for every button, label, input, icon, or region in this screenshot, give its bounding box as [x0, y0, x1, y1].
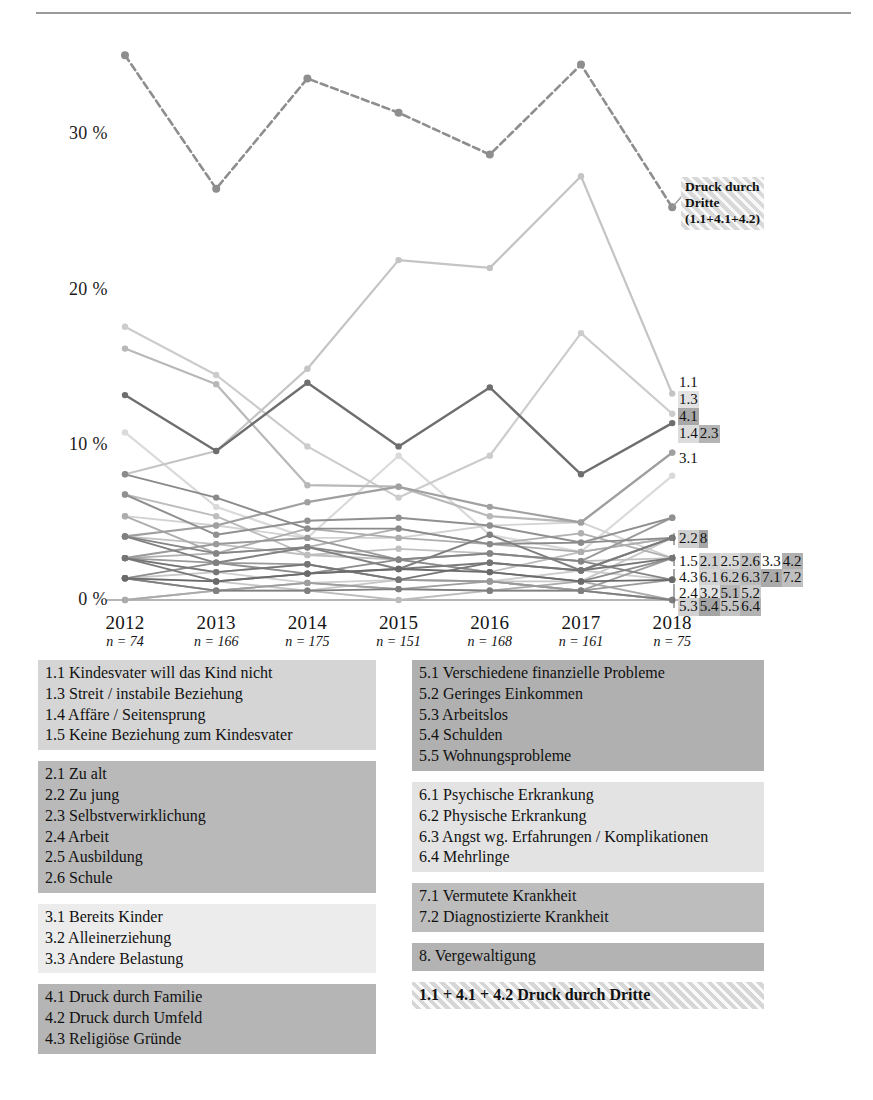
data-point [395, 566, 401, 572]
legend-entry: 3.1 Bereits Kinder [45, 907, 370, 928]
legend-entry: 3.3 Andere Belastung [45, 949, 370, 970]
data-point [395, 494, 401, 500]
legend-entry: 4.2 Druck durch Umfeld [45, 1008, 370, 1029]
data-point [213, 588, 219, 594]
data-point [395, 484, 401, 490]
data-point [304, 366, 310, 372]
y-axis-tick-label: 20 % [36, 279, 108, 300]
data-point [213, 569, 219, 575]
data-point [304, 570, 310, 576]
data-point [487, 522, 493, 528]
data-point [213, 541, 219, 547]
inline-series-label: 6.4 [740, 598, 761, 616]
data-point [213, 494, 219, 500]
series-1.3 [122, 324, 676, 501]
legend-entry: 4.3 Religiöse Gründe [45, 1029, 370, 1050]
data-point [669, 473, 675, 479]
inline-label-row: 5.35.45.56.4 [678, 598, 761, 616]
data-point [487, 384, 493, 390]
y-axis-tick-label: 0 % [36, 589, 108, 610]
data-point [395, 453, 401, 459]
series-4.1 [122, 380, 676, 478]
inline-series-label: 5.3 [678, 598, 699, 616]
data-point [304, 499, 310, 505]
data-point [213, 550, 219, 556]
data-point [395, 556, 401, 562]
inline-series-label: 1.4 [678, 425, 699, 443]
data-point [304, 380, 310, 386]
legend-entry: 7.2 Diagnostizierte Krankheit [419, 907, 758, 928]
legend-entry: 5.1 Verschiedene finanzielle Probleme [419, 663, 758, 684]
data-point [395, 546, 401, 552]
data-point [487, 453, 493, 459]
legend-entry: 5.3 Arbeitslos [419, 705, 758, 726]
data-point [122, 555, 128, 561]
y-axis-tick-label: 30 % [36, 123, 108, 144]
data-point [213, 532, 219, 538]
inline-label-row: 3.1 [678, 450, 699, 468]
data-point [578, 588, 584, 594]
data-point [122, 597, 128, 603]
data-point [487, 578, 493, 584]
chart-page: 0 %10 %20 %30 % 2012n = 742013n = 166201… [0, 0, 873, 1100]
data-point [487, 532, 493, 538]
legend-entry: 2.1 Zu alt [45, 764, 370, 785]
series-druck [121, 51, 676, 211]
data-point [487, 513, 493, 519]
legend-entry: 2.5 Ausbildung [45, 847, 370, 868]
data-point [669, 390, 675, 396]
inline-series-label: 7.1 [761, 569, 782, 587]
legend-block: 7.1 Vermutete Krankheit7.2 Diagnostizier… [412, 883, 764, 932]
legend-entry: 6.4 Mehrlinge [419, 847, 758, 868]
legend-entry: 2.3 Selbstverwirklichung [45, 806, 370, 827]
data-point [487, 560, 493, 566]
data-point [213, 522, 219, 528]
data-point [578, 539, 584, 545]
data-point [213, 560, 219, 566]
legend-block: 4.1 Druck durch Familie4.2 Druck durch U… [38, 984, 376, 1053]
data-point [669, 411, 675, 417]
data-point [304, 443, 310, 449]
legend-entry: 2.6 Schule [45, 868, 370, 889]
legend-entry: 1.4 Affäre / Seitensprung [45, 705, 370, 726]
data-point [578, 173, 584, 179]
line-chart: 0 %10 %20 %30 % 2012n = 742013n = 166201… [0, 0, 873, 660]
data-point [304, 544, 310, 550]
legend-block: 3.1 Bereits Kinder3.2 Alleinerziehung3.3… [38, 904, 376, 973]
data-point [122, 575, 128, 581]
data-point [395, 586, 401, 592]
inline-series-label: 5.5 [720, 598, 741, 616]
y-axis-tick-label: 10 % [36, 434, 108, 455]
data-point [213, 381, 219, 387]
data-point [487, 504, 493, 510]
data-point [395, 109, 403, 117]
data-point [212, 185, 220, 193]
data-point [122, 513, 128, 519]
inline-label-row: 1.3 [678, 391, 699, 409]
legend-entry: 4.1 Druck durch Familie [45, 987, 370, 1008]
inline-label-row: 4.1 [678, 408, 699, 426]
data-point [669, 515, 675, 521]
legend-entry: 1.1 Kindesvater will das Kind nicht [45, 663, 370, 684]
data-point [578, 530, 584, 536]
data-point [304, 561, 310, 567]
data-point [669, 420, 675, 426]
callout-druck-durch-dritte: Druck durch Dritte (1.1+4.1+4.2) [681, 177, 764, 230]
data-point [213, 578, 219, 584]
data-point [122, 324, 128, 330]
data-point [304, 588, 310, 594]
data-point [213, 372, 219, 378]
legend-entry: 5.2 Geringes Einkommen [419, 684, 758, 705]
data-point [487, 541, 493, 547]
data-point [395, 577, 401, 583]
data-point [122, 345, 128, 351]
legend-block: 5.1 Verschiedene finanzielle Probleme5.2… [412, 660, 764, 771]
data-point [578, 578, 584, 584]
data-point [578, 519, 584, 525]
data-point [213, 513, 219, 519]
data-point [395, 443, 401, 449]
data-point [304, 525, 310, 531]
data-point [487, 550, 493, 556]
callout-line-3: (1.1+4.1+4.2) [685, 211, 760, 227]
inline-label-row: 2.28 [678, 530, 708, 548]
